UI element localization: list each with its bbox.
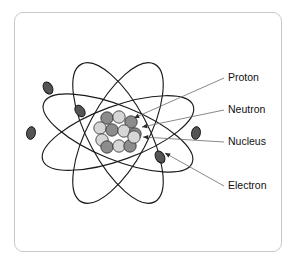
nucleon-proton-9 (101, 141, 113, 153)
proton-arrow-line (134, 78, 224, 118)
electron-arrow (165, 153, 224, 186)
nucleus-cluster (94, 111, 141, 153)
electron-1 (41, 80, 55, 95)
neutron-arrow-line (142, 110, 224, 127)
label-neutron: Neutron (228, 103, 266, 115)
proton-arrow (134, 78, 224, 118)
electron-5 (153, 149, 167, 164)
label-electron: Electron (228, 179, 267, 191)
electrons-group (26, 80, 202, 164)
nucleus-arrow-head (143, 135, 148, 140)
nucleon-neutron-10 (113, 140, 125, 152)
neutron-arrow-head (142, 124, 148, 129)
electron-4 (191, 126, 202, 140)
label-proton: Proton (228, 71, 259, 83)
nucleon-proton-5 (106, 124, 118, 136)
nucleon-neutron-12 (128, 131, 140, 143)
atom-illustration: ProtonNeutronNucleusElectron (0, 0, 297, 265)
callout-labels-group: ProtonNeutronNucleusElectron (228, 71, 267, 191)
nucleon-neutron-4 (94, 122, 106, 134)
electron-arrow-line (165, 153, 224, 186)
atom-diagram-root: ProtonNeutronNucleusElectron (0, 0, 297, 265)
label-nucleus: Nucleus (228, 135, 266, 147)
electron-3 (26, 126, 37, 140)
nucleon-neutron-2 (113, 111, 125, 123)
